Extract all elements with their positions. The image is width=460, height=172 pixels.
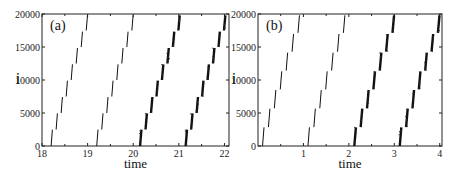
spike-dot <box>173 45 174 46</box>
spike-dot <box>393 31 394 32</box>
spike-dot <box>169 58 170 59</box>
spike-dot <box>419 88 420 89</box>
spike-segment <box>112 81 113 97</box>
spike-segment <box>373 71 375 89</box>
spike-dot <box>202 96 203 97</box>
spike-dot <box>208 79 209 80</box>
spike-dot <box>202 94 203 95</box>
spike-dot <box>212 48 213 49</box>
spike-dot <box>156 87 157 88</box>
plot-frame <box>42 14 229 146</box>
spike-segment <box>392 15 394 33</box>
spike-dot <box>139 130 140 131</box>
spike-segment <box>167 48 168 64</box>
spike-dot <box>214 54 215 55</box>
spike-dot <box>213 58 214 59</box>
spike-segment <box>419 71 421 89</box>
x-tick-label: 4 <box>437 148 442 159</box>
spike-segment <box>320 90 321 108</box>
spike-dot <box>406 119 407 120</box>
spike-dot <box>192 122 193 123</box>
y-tick-label: 20000 <box>15 9 40 20</box>
x-tick-label: 1 <box>301 148 306 159</box>
spike-segment <box>122 48 123 64</box>
spike-dot <box>185 133 186 134</box>
spike-dot <box>374 72 375 73</box>
spike-dot <box>224 28 225 29</box>
spike-dot <box>419 84 420 85</box>
spike-dot <box>185 130 186 131</box>
spike-segment <box>76 48 77 64</box>
spike-dot <box>162 75 163 76</box>
spike-dot <box>387 50 388 51</box>
spike-dot <box>361 120 362 121</box>
spike-segment <box>132 15 133 30</box>
spike-dot <box>380 68 381 69</box>
spike-dot <box>387 41 388 42</box>
spike-dot <box>433 41 434 42</box>
spike-segment <box>102 113 103 129</box>
panel-a: 050001000015000200001819202122timei(a) <box>15 9 229 172</box>
spike-segment <box>367 90 369 108</box>
spike-segment <box>51 130 52 146</box>
y-axis-label: i <box>232 70 237 87</box>
y-tick-label: 20000 <box>231 9 256 20</box>
spike-segment <box>380 53 382 71</box>
y-tick-label: 5000 <box>236 108 256 119</box>
y-tick-label: 15000 <box>231 42 256 53</box>
spike-dot <box>197 102 198 103</box>
spike-dot <box>386 48 387 49</box>
spike-dot <box>145 127 146 128</box>
spike-dot <box>179 17 180 18</box>
spike-dot <box>379 52 380 53</box>
spike-dot <box>206 76 207 77</box>
spike-segment <box>71 64 72 80</box>
spike-dot <box>437 31 438 32</box>
spike-dot <box>439 30 440 31</box>
spike-dot <box>368 103 369 104</box>
spike-dot <box>185 131 186 132</box>
spike-dot <box>367 91 368 92</box>
spike-dot <box>400 131 401 132</box>
spike-dot <box>425 70 426 71</box>
spike-dot <box>167 57 168 58</box>
spike-dot <box>438 15 439 16</box>
spike-dot <box>166 59 167 60</box>
spike-dot <box>367 97 368 98</box>
spike-dot <box>361 113 362 114</box>
spike-dot <box>190 128 191 129</box>
x-tick-label: 19 <box>83 148 93 159</box>
spike-dot <box>354 127 355 128</box>
spike-dot <box>413 98 414 99</box>
x-tick-label: 21 <box>174 148 184 159</box>
spike-dot <box>373 77 374 78</box>
x-tick-label: 22 <box>219 148 229 159</box>
x-tick-label: 3 <box>392 148 397 159</box>
spike-segment <box>97 130 98 146</box>
spike-segment <box>338 34 339 52</box>
spike-segment <box>343 15 344 33</box>
spike-dot <box>157 90 158 91</box>
spike-segment <box>81 32 82 47</box>
spike-dot <box>157 83 158 84</box>
x-axis-label: time <box>124 156 147 171</box>
spike-dot <box>162 70 163 71</box>
spike-segment <box>298 15 299 33</box>
raster-plot-figure: 050001000015000200001819202122timei(a)05… <box>0 0 460 172</box>
spike-segment <box>280 71 281 89</box>
spike-segment <box>213 48 214 64</box>
y-tick-label: 0 <box>251 141 256 152</box>
spike-dot <box>380 58 381 59</box>
spike-segment <box>326 71 327 89</box>
spike-segment <box>263 127 264 146</box>
spike-segment <box>107 97 108 113</box>
panel-label: (a) <box>50 18 66 34</box>
spike-dot <box>139 133 140 134</box>
spike-dot <box>224 17 225 18</box>
spike-dot <box>380 56 381 57</box>
spike-dot <box>157 92 158 93</box>
spike-segment <box>425 53 427 71</box>
spike-dot <box>163 66 164 67</box>
data-series <box>51 15 225 146</box>
spike-dot <box>219 44 220 45</box>
